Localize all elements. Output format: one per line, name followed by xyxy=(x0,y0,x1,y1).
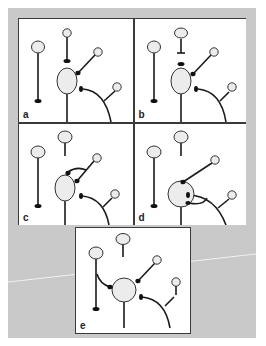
panel-e: e xyxy=(75,227,191,334)
neuron-diagram-b xyxy=(135,19,246,122)
neuron-diagram-c xyxy=(19,124,133,225)
panel-label-c: c xyxy=(23,213,29,223)
panel-label-b: b xyxy=(139,110,145,120)
panel-label-d: d xyxy=(139,213,145,223)
panel-label-e: e xyxy=(80,321,86,331)
neuron-diagram-a xyxy=(19,19,133,122)
panel-grid: a xyxy=(18,18,246,225)
neuron-diagram-d xyxy=(135,124,246,225)
panel-label-a: a xyxy=(23,110,29,120)
panel-a: a xyxy=(19,19,133,122)
panel-c: c xyxy=(19,124,133,225)
panel-b: b xyxy=(135,19,246,122)
neuron-diagram-e xyxy=(76,228,189,332)
panel-d: d xyxy=(135,124,246,225)
